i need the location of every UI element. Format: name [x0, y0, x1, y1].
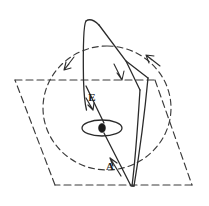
field-label: E [88, 91, 95, 103]
dashed-circle-path [43, 46, 171, 170]
coil-center-dot [99, 124, 105, 132]
loop-upper-right-spur [126, 61, 148, 78]
figure-container: E A [0, 0, 209, 206]
plane-right-edge [155, 80, 192, 185]
arrow-solid-diagonal-head [114, 64, 124, 80]
plane-left-edge [15, 80, 55, 185]
loop-left-edge [83, 21, 86, 110]
loop-right-edge [134, 78, 148, 186]
loop-apex [86, 20, 99, 25]
area-label: A [106, 160, 114, 172]
coil-ellipse-group [82, 120, 122, 136]
dashed-circle [43, 46, 171, 170]
diagram-canvas: E A [0, 0, 209, 206]
arrow-solid-diagonal-icon [114, 64, 124, 80]
